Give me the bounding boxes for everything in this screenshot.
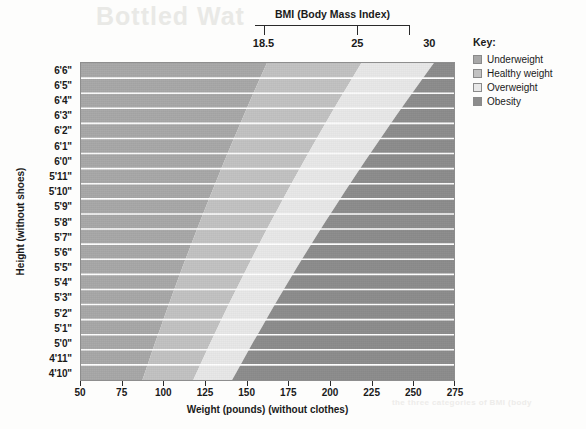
bmi-bracket-bar (255, 25, 410, 26)
y-axis-tick-label: 5'8" (54, 216, 72, 227)
legend-color-swatch (473, 83, 482, 92)
y-axis-tick-label: 4'11" (49, 353, 72, 364)
bmi-scale-title: BMI (Body Mass Index) (255, 8, 410, 20)
y-axis-tick-label: 5'2" (54, 307, 72, 318)
plot-area (80, 62, 455, 381)
x-axis-tick-label: 75 (116, 387, 127, 398)
x-axis-tick-mark (80, 381, 81, 386)
x-axis-tick-mark (454, 381, 455, 386)
legend-color-swatch (473, 97, 482, 106)
bmi-category-bands (81, 63, 454, 380)
bmi-chart: BMI (Body Mass Index) 18.52530 6'6"6'5"6… (0, 0, 586, 429)
legend-item: Obesity (473, 95, 583, 108)
x-axis-tick-label: 225 (363, 387, 380, 398)
y-axis-tick-label: 6'2" (54, 125, 72, 136)
x-axis-tick-label: 50 (74, 387, 85, 398)
x-axis-tick-mark (247, 381, 248, 386)
legend-item: Overweight (473, 81, 583, 94)
y-axis-tick-label: 5'3" (54, 292, 72, 303)
x-axis-tick-mark (372, 381, 373, 386)
x-axis-tick-label: 275 (447, 387, 464, 398)
x-axis-tick-mark (288, 381, 289, 386)
y-axis-tick-label: 4'10" (49, 368, 72, 379)
legend-item: Underweight (473, 53, 583, 66)
x-axis-tick-labels: 5075100125150175200225250275 (80, 387, 455, 401)
legend: Key: UnderweightHealthy weightOverweight… (473, 36, 583, 109)
legend-color-swatch (473, 55, 482, 64)
y-axis-title: Height (without shoes) (12, 62, 28, 381)
x-axis-tick-label: 125 (197, 387, 214, 398)
y-axis-tick-label: 6'0" (54, 155, 72, 166)
bmi-tick-label: 25 (351, 37, 363, 49)
y-axis-tick-label: 6'1" (54, 140, 72, 151)
x-axis-tick-label: 200 (322, 387, 339, 398)
x-axis-title: Weight (pounds) (without clothes) (80, 404, 455, 415)
y-axis-tick-label: 5'4" (54, 277, 72, 288)
x-axis-tick-label: 250 (405, 387, 422, 398)
legend-item-label: Overweight (487, 82, 538, 93)
x-axis-tick-mark (163, 381, 164, 386)
x-axis-tick-mark (122, 381, 123, 386)
legend-item: Healthy weight (473, 67, 583, 80)
legend-title: Key: (473, 36, 583, 48)
bmi-bracket-stem (409, 25, 410, 35)
y-axis-tick-label: 6'6" (54, 64, 72, 75)
y-axis-tick-label: 6'3" (54, 110, 72, 121)
x-axis-tick-mark (205, 381, 206, 386)
legend-items: UnderweightHealthy weightOverweightObesi… (473, 53, 583, 108)
x-axis-tick-mark (413, 381, 414, 386)
y-axis-tick-label: 6'4" (54, 94, 72, 105)
y-axis-tick-label: 5'1" (54, 322, 72, 333)
y-axis-tick-label: 5'10" (49, 186, 72, 197)
y-axis-tick-label: 5'9" (54, 201, 72, 212)
y-axis-tick-label: 5'0" (54, 338, 72, 349)
bmi-tick-label: 18.5 (253, 37, 274, 49)
x-axis-tick-label: 150 (238, 387, 255, 398)
legend-item-label: Obesity (487, 96, 521, 107)
y-axis-tick-label: 5'6" (54, 246, 72, 257)
y-axis-tick-label: 6'5" (54, 79, 72, 90)
legend-item-label: Healthy weight (487, 68, 553, 79)
x-axis-tick-mark (330, 381, 331, 386)
bmi-scale-tick-labels: 18.52530 (255, 37, 410, 51)
x-axis-tick-label: 175 (280, 387, 297, 398)
legend-color-swatch (473, 69, 482, 78)
y-axis-tick-label: 5'5" (54, 262, 72, 273)
legend-item-label: Underweight (487, 54, 543, 65)
bmi-bracket-stem (357, 25, 358, 35)
bmi-tick-label: 30 (423, 37, 435, 49)
y-axis-tick-label: 5'7" (54, 231, 72, 242)
x-axis-tick-label: 100 (155, 387, 172, 398)
y-axis-tick-label: 5'11" (49, 170, 72, 181)
bmi-scale-bracket (255, 25, 410, 36)
bmi-bracket-stem (264, 25, 265, 35)
